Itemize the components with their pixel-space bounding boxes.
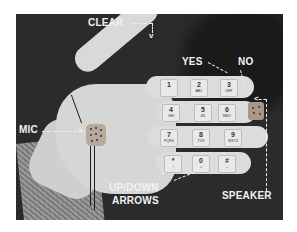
key-number: 8	[193, 130, 209, 139]
mic-pointer-line	[42, 131, 82, 132]
finger-ring: 7PQRS 8TUV 9WXYZ	[148, 126, 268, 148]
label-arrows: ARROWS	[112, 195, 159, 206]
speaker-box	[248, 102, 264, 120]
finger-index: 1 2ABC 3DEF	[146, 76, 254, 98]
key-9: 9WXYZ	[224, 129, 242, 147]
key-4: 4GHI	[162, 104, 180, 122]
speaker-pointer-line	[266, 99, 267, 191]
key-number: 1	[161, 80, 177, 89]
mic-wire	[94, 146, 95, 210]
key-number: 0	[193, 156, 209, 165]
label-clear: CLEAR	[88, 17, 123, 28]
key-hash: #↓	[218, 155, 236, 173]
key-letters: MNO	[219, 114, 235, 118]
label-yes: YES	[182, 56, 203, 67]
key-letters: PQRS	[161, 139, 177, 143]
key-6: 6MNO	[218, 104, 236, 122]
key-2: 2ABC	[190, 79, 208, 97]
key-number: *	[165, 156, 181, 165]
clear-arrowhead-icon: v	[149, 32, 153, 40]
speaker-arrowhead-icon: <	[254, 95, 259, 103]
key-5: 5JKL	[194, 104, 212, 122]
key-8: 8TUV	[192, 129, 210, 147]
microphone	[86, 124, 106, 146]
label-speaker: SPEAKER	[222, 190, 272, 201]
mic-wire	[90, 146, 91, 206]
key-letters: JKL	[195, 114, 211, 118]
key-letters: WXYZ	[225, 139, 241, 143]
finger-middle: 4GHI 5JKL 6MNO	[156, 101, 256, 123]
key-3: 3DEF	[220, 79, 238, 97]
key-number: 3	[221, 80, 237, 89]
key-number: #	[219, 156, 235, 165]
key-number: 4	[163, 105, 179, 114]
mic-arrowhead-icon: >	[78, 127, 83, 135]
finger-pinky: *↑ 0+ #↓	[156, 152, 251, 174]
label-up-down: UP/DOWN	[109, 182, 159, 193]
key-7: 7PQRS	[160, 129, 178, 147]
key-number: 2	[191, 80, 207, 89]
key-letters: ABC	[191, 89, 207, 93]
key-number: 7	[161, 130, 177, 139]
key-number: 6	[219, 105, 235, 114]
glove-photo: 1 2ABC 3DEF 4GHI 5JKL 6MNO 7PQRS 8TUV 9W…	[16, 14, 283, 220]
key-letters: DEF	[221, 89, 237, 93]
key-number: 9	[225, 130, 241, 139]
speaker-pointer-line	[259, 99, 266, 100]
key-number: 5	[195, 105, 211, 114]
label-no: NO	[238, 56, 253, 67]
key-1: 1	[160, 79, 178, 97]
label-mic: MIC	[19, 124, 38, 135]
key-letters: GHI	[163, 114, 179, 118]
key-letters: ↓	[219, 165, 235, 169]
key-letters: TUV	[193, 139, 209, 143]
clear-pointer-line	[132, 23, 152, 24]
